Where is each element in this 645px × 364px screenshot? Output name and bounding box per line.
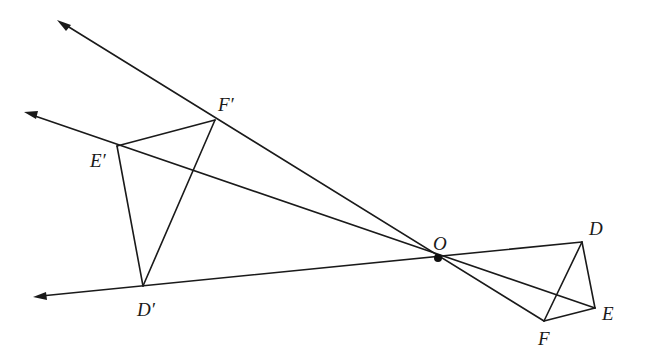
arrowhead-icon-middle	[24, 111, 38, 119]
label-e: E	[601, 303, 614, 324]
label-e-prime: E′	[89, 150, 107, 171]
arrowhead-icon-top	[57, 20, 71, 31]
center-point-o	[434, 254, 442, 262]
label-d-prime: D′	[136, 299, 156, 320]
ray-through-f	[64, 24, 544, 321]
ray-through-d	[41, 242, 582, 296]
segment-de	[582, 242, 595, 308]
dilation-diagram: D E F O D′ E′ F′	[0, 0, 645, 364]
segment-f-prime-d-prime	[143, 120, 215, 286]
arrowhead-icon-bottom	[33, 292, 47, 300]
label-o: O	[433, 233, 447, 254]
label-f: F	[537, 328, 550, 349]
segment-e-prime-f-prime	[117, 120, 215, 146]
ray-through-e	[32, 115, 595, 308]
segment-ef	[544, 308, 595, 321]
segment-fd	[544, 242, 582, 321]
label-d: D	[588, 218, 603, 239]
segment-e-prime-d-prime	[117, 146, 143, 286]
label-f-prime: F′	[217, 94, 235, 115]
